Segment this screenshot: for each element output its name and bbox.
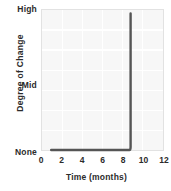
x-tick-label-10: 10: [139, 155, 148, 165]
x-tick-label-6: 6: [100, 155, 105, 165]
chart-container: High Mid None Degree of Change 0 2 4 6 8…: [0, 0, 171, 191]
x-tick-label-0: 0: [39, 155, 44, 165]
y-axis-title: Degree of Change: [15, 13, 25, 133]
data-series-degree-of-change: [41, 9, 164, 151]
x-tick-label-12: 12: [159, 155, 168, 165]
y-tick-label-none: None: [15, 147, 37, 157]
x-axis-title: Time (months): [0, 172, 171, 182]
x-tick-label-8: 8: [121, 155, 126, 165]
x-tick-label-4: 4: [80, 155, 85, 165]
x-axis-ticks: 0 2 4 6 8 10 12: [41, 155, 164, 167]
x-tick-label-2: 2: [59, 155, 64, 165]
